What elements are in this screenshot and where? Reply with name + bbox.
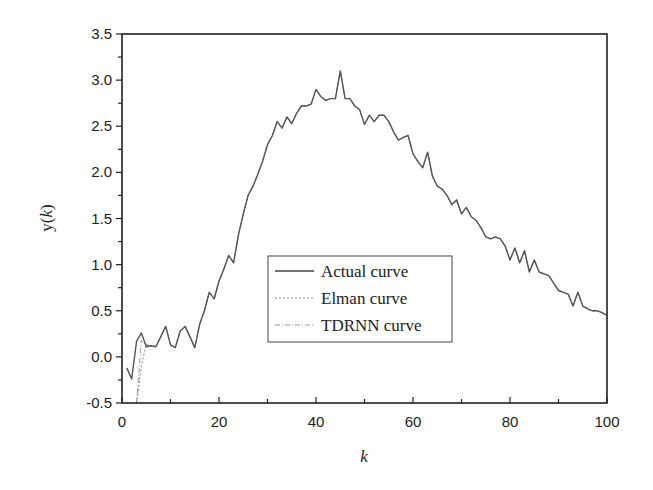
series-tdrnn-curve xyxy=(137,71,607,403)
legend-label-elman: Elman curve xyxy=(321,289,407,308)
x-tick-label: 60 xyxy=(405,413,422,430)
legend: Actual curve Elman curve TDRNN curve xyxy=(268,256,452,342)
y-tick-label: -0.5 xyxy=(86,394,112,411)
y-tick-label: 0.0 xyxy=(91,348,112,365)
x-axis: 020406080100 xyxy=(118,397,620,430)
series-elman-curve xyxy=(137,71,607,403)
x-tick-label: 100 xyxy=(594,413,619,430)
line-chart: 020406080100 -0.50.00.51.01.52.02.53.03.… xyxy=(0,0,653,490)
legend-label-actual: Actual curve xyxy=(321,262,408,281)
x-tick-label: 80 xyxy=(502,413,519,430)
x-axis-label: k xyxy=(360,447,368,466)
y-tick-label: 0.5 xyxy=(91,302,112,319)
y-tick-label: 1.5 xyxy=(91,210,112,227)
y-axis: -0.50.00.51.01.52.02.53.03.5 xyxy=(86,25,122,411)
y-tick-label: 3.5 xyxy=(91,25,112,42)
legend-label-tdrnn: TDRNN curve xyxy=(321,316,422,335)
plot-lines xyxy=(127,71,607,403)
x-tick-label: 0 xyxy=(118,413,126,430)
y-tick-label: 1.0 xyxy=(91,256,112,273)
y-tick-label: 3.0 xyxy=(91,71,112,88)
x-tick-label: 20 xyxy=(211,413,228,430)
x-tick-label: 40 xyxy=(308,413,325,430)
y-axis-label: y(k) xyxy=(37,204,56,231)
y-tick-label: 2.0 xyxy=(91,163,112,180)
y-tick-label: 2.5 xyxy=(91,117,112,134)
